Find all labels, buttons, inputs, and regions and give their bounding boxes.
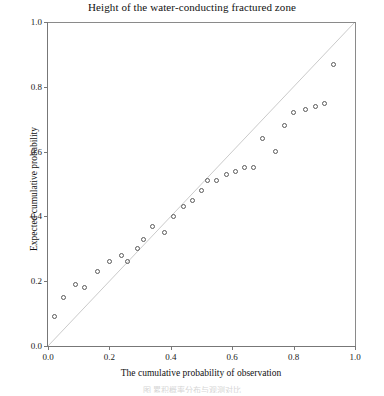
y-tick-mark <box>44 87 48 88</box>
x-tick-mark <box>109 346 110 350</box>
page-title: Height of the water-conducting fractured… <box>0 1 384 13</box>
x-tick-label: 0.4 <box>165 352 176 362</box>
data-point-marker <box>119 253 124 258</box>
x-tick-label: 0.2 <box>104 352 115 362</box>
x-tick-mark <box>294 346 295 350</box>
x-tick-label: 0.8 <box>288 352 299 362</box>
x-tick-mark <box>48 346 49 350</box>
data-point-marker <box>273 149 278 154</box>
data-point-marker <box>141 237 146 242</box>
data-point-marker <box>61 295 66 300</box>
y-tick-mark <box>44 22 48 23</box>
plot-area: 0.00.20.40.60.81.0 0.00.20.40.60.81.0 <box>47 22 355 347</box>
x-tick-mark <box>171 346 172 350</box>
plot-frame-right <box>355 22 356 348</box>
data-point-marker <box>52 314 57 319</box>
y-tick-label: 1.0 <box>31 17 42 27</box>
y-tick-label: 0.0 <box>31 341 42 351</box>
data-point-marker <box>199 188 204 193</box>
data-point-marker <box>135 246 140 251</box>
y-tick-mark <box>44 281 48 282</box>
x-tick-mark <box>355 346 356 350</box>
data-point-marker <box>331 62 336 67</box>
data-point-marker <box>313 104 318 109</box>
data-point-marker <box>224 172 229 177</box>
data-point-marker <box>233 169 238 174</box>
qq-plot-figure: Height of the water-conducting fractured… <box>0 0 384 396</box>
data-point-marker <box>190 198 195 203</box>
y-tick-mark <box>44 216 48 217</box>
x-tick-mark <box>232 346 233 350</box>
x-tick-label: 1.0 <box>349 352 360 362</box>
figure-caption: 图 累积概率分布与观测对比 <box>0 384 384 393</box>
x-tick-label: 0.6 <box>227 352 238 362</box>
data-point-marker <box>181 204 186 209</box>
data-point-marker <box>150 224 155 229</box>
x-tick-label: 0.0 <box>42 352 53 362</box>
x-axis-label: The cumulative probability of observatio… <box>47 368 355 378</box>
identity-reference-line <box>48 22 355 346</box>
y-axis-label: Expected cumulative probability <box>29 69 39 309</box>
y-tick-mark <box>44 152 48 153</box>
data-point-marker <box>95 269 100 274</box>
data-point-marker <box>322 101 327 106</box>
